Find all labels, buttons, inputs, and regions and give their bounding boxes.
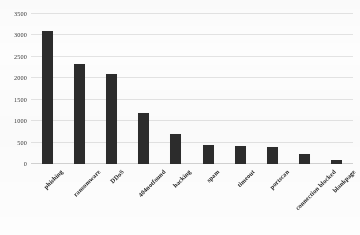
x-axis-label-hacking: hacking [171, 168, 192, 189]
x-label-slot: ransomware [63, 166, 95, 232]
bar-slot [128, 14, 160, 164]
y-axis-tick-label: 3500 [14, 10, 27, 17]
bar-slot [256, 14, 288, 164]
bar-timeout [235, 146, 246, 164]
x-label-slot: phishing [31, 166, 63, 232]
y-axis-tick-label: 0 [24, 160, 27, 167]
y-axis-tick-label: 500 [17, 138, 27, 145]
bar-slot [63, 14, 95, 164]
bar-slot [95, 14, 127, 164]
x-axis-labels: phishingransomwareDDoS404notfoundhacking… [31, 166, 353, 232]
bar-connection-blocked [299, 154, 310, 164]
x-axis-label-ddos: DDoS [108, 168, 125, 185]
bar-404notfound [138, 113, 149, 164]
plot-area: 0500100015002000250030003500 [31, 14, 353, 164]
x-label-slot: blankpage [321, 166, 353, 232]
x-axis-label-phishing: phishing [42, 168, 64, 190]
x-label-slot: spam [192, 166, 224, 232]
y-axis-tick-label: 3000 [14, 31, 27, 38]
bar-slot [321, 14, 353, 164]
bar-slot [31, 14, 63, 164]
bar-blankpage [331, 160, 342, 164]
bar-portscan [267, 147, 278, 164]
x-axis-label-timeout: timeout [236, 168, 256, 188]
y-axis-tick-label: 2500 [14, 52, 27, 59]
x-label-slot: connection blocked [289, 166, 321, 232]
bar-spam [203, 145, 214, 164]
y-axis-tick-label: 1000 [14, 117, 27, 124]
bar-ddos [106, 74, 117, 164]
x-label-slot: timeout [224, 166, 256, 232]
y-axis-tick-label: 2000 [14, 74, 27, 81]
bar-chart: 0500100015002000250030003500 phishingran… [0, 0, 360, 235]
bar-slot [289, 14, 321, 164]
bar-hacking [170, 134, 181, 164]
y-axis-tick-label: 1500 [14, 95, 27, 102]
bar-series [31, 14, 353, 164]
x-axis-label-portscan: portscan [267, 168, 289, 190]
bar-slot [224, 14, 256, 164]
bar-phishing [42, 31, 53, 164]
x-axis-label-spam: spam [205, 168, 221, 184]
x-label-slot: portscan [256, 166, 288, 232]
x-label-slot: hacking [160, 166, 192, 232]
bar-slot [160, 14, 192, 164]
bar-ransomware [74, 64, 85, 164]
x-label-slot: DDoS [95, 166, 127, 232]
x-label-slot: 404notfound [128, 166, 160, 232]
bar-slot [192, 14, 224, 164]
x-axis-label-blankpage: blankpage [331, 168, 357, 194]
